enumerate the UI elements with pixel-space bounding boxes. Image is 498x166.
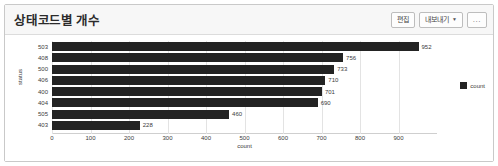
bar-value-label: 701 bbox=[325, 89, 335, 95]
y-axis-tick-label: 404 bbox=[38, 100, 48, 106]
x-axis-tick-label: 500 bbox=[239, 135, 249, 141]
x-axis-label: count bbox=[237, 143, 252, 149]
screenshot-root: 상태코드별 개수 편집 내보내기 ▼ ... status 010 bbox=[0, 0, 498, 166]
panel-header: 상태코드별 개수 편집 내보내기 ▼ ... bbox=[5, 5, 493, 35]
bar[interactable] bbox=[52, 98, 318, 107]
bar[interactable] bbox=[52, 42, 419, 51]
x-axis-tick-label: 400 bbox=[201, 135, 211, 141]
x-axis-tick-label: 800 bbox=[355, 135, 365, 141]
bar-row[interactable]: 701 bbox=[52, 87, 437, 96]
x-axis-tick-label: 100 bbox=[85, 135, 95, 141]
edit-button[interactable]: 편집 bbox=[391, 12, 415, 28]
panel-body: status 0100200300400500600700800900count… bbox=[5, 35, 493, 161]
page-title: 상태코드별 개수 bbox=[14, 10, 100, 29]
y-axis-tick-label: 403 bbox=[38, 122, 48, 128]
bar-value-label: 710 bbox=[328, 77, 338, 83]
export-button[interactable]: 내보내기 ▼ bbox=[419, 12, 463, 28]
y-axis-label: status bbox=[17, 69, 23, 85]
y-axis-tick-label: 400 bbox=[38, 89, 48, 95]
x-axis-tick-label: 700 bbox=[316, 135, 326, 141]
bar-value-label: 690 bbox=[321, 100, 331, 106]
bar[interactable] bbox=[52, 76, 325, 85]
bar[interactable] bbox=[52, 121, 140, 130]
bar-value-label: 952 bbox=[422, 44, 432, 50]
panel-header-actions: 편집 내보내기 ▼ ... bbox=[391, 12, 487, 28]
bar-row[interactable]: 228 bbox=[52, 121, 437, 130]
legend-label-count: count bbox=[470, 83, 485, 89]
y-axis-tick-label: 406 bbox=[38, 77, 48, 83]
bar-chart: status 0100200300400500600700800900count… bbox=[5, 35, 493, 161]
bar-row[interactable]: 710 bbox=[52, 76, 437, 85]
bar-row[interactable]: 460 bbox=[52, 110, 437, 119]
export-button-label: 내보내기 bbox=[425, 13, 449, 27]
chart-legend: count bbox=[460, 82, 485, 89]
chart-panel: 상태코드별 개수 편집 내보내기 ▼ ... status 010 bbox=[4, 4, 494, 162]
x-axis-tick-label: 300 bbox=[162, 135, 172, 141]
y-axis-tick-label: 505 bbox=[38, 111, 48, 117]
x-axis-tick-label: 0 bbox=[50, 135, 53, 141]
edit-button-label: 편집 bbox=[397, 13, 409, 27]
plot-area: 0100200300400500600700800900count9525037… bbox=[52, 41, 437, 131]
bar-value-label: 460 bbox=[232, 111, 242, 117]
y-axis-tick-label: 500 bbox=[38, 66, 48, 72]
more-options-button[interactable]: ... bbox=[467, 12, 487, 28]
legend-swatch-count bbox=[460, 82, 467, 89]
y-axis-tick-label: 408 bbox=[38, 55, 48, 61]
bar-row[interactable]: 733 bbox=[52, 65, 437, 74]
x-axis-tick-label: 200 bbox=[124, 135, 134, 141]
more-options-label: ... bbox=[473, 13, 481, 27]
x-axis-tick-label: 600 bbox=[278, 135, 288, 141]
bar-value-label: 756 bbox=[346, 55, 356, 61]
y-axis-tick-label: 503 bbox=[38, 44, 48, 50]
bar-value-label: 733 bbox=[337, 66, 347, 72]
chevron-down-icon: ▼ bbox=[452, 17, 457, 22]
bar[interactable] bbox=[52, 53, 343, 62]
bar-value-label: 228 bbox=[143, 122, 153, 128]
bar-row[interactable]: 690 bbox=[52, 98, 437, 107]
bar[interactable] bbox=[52, 87, 322, 96]
bar-row[interactable]: 756 bbox=[52, 53, 437, 62]
bar-row[interactable]: 952 bbox=[52, 42, 437, 51]
x-axis-tick-label: 900 bbox=[393, 135, 403, 141]
bar[interactable] bbox=[52, 65, 334, 74]
bar[interactable] bbox=[52, 110, 229, 119]
